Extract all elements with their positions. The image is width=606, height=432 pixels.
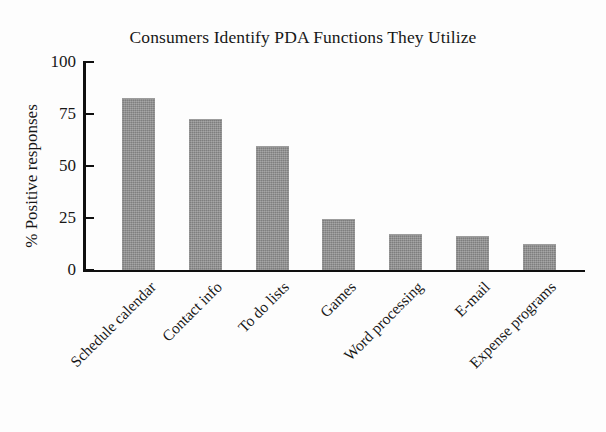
bar-chart-figure: Consumers Identify PDA Functions They Ut… — [0, 0, 606, 432]
x-axis-category-labels: Schedule calendarContact infoTo do lists… — [0, 0, 606, 432]
